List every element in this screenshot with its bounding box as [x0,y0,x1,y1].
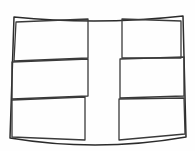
drawing-canvas: Hand-drawn flag sketch Hand-drawn outlin… [0,0,195,151]
flag-outline [10,16,186,145]
panel-bottom-left [12,97,85,140]
panel-top-left [14,19,88,61]
panel-middle-right [120,57,184,98]
panel-middle-left [12,59,88,99]
panel-bottom-right [119,98,185,140]
flag-sketch-svg [0,0,195,151]
panel-top-right [122,19,181,58]
